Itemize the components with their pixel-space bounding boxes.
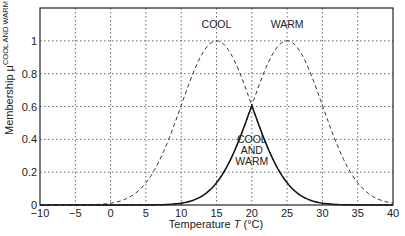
x-tick-label: −5 <box>69 207 82 219</box>
x-tick-label: 35 <box>352 207 364 219</box>
annotation-label: COOL <box>202 18 232 30</box>
y-axis-ticks: 00.20.40.60.81 <box>22 35 37 211</box>
y-tick-label: 0.6 <box>22 101 37 113</box>
annotation-label: WARM <box>235 155 268 167</box>
x-tick-label: 0 <box>108 207 114 219</box>
x-axis-label: Temperature T (°C) <box>169 218 263 230</box>
y-tick-label: 0.8 <box>22 68 37 80</box>
annotation-label: WARM <box>271 18 304 30</box>
y-axis-label: Membership μCOOL AND WARM <box>1 1 15 135</box>
x-tick-label: 30 <box>316 207 328 219</box>
x-tick-label: 5 <box>143 207 149 219</box>
y-tick-label: 0.4 <box>22 133 37 145</box>
x-tick-label: 40 <box>387 207 399 219</box>
x-tick-label: 25 <box>281 207 293 219</box>
y-tick-label: 1 <box>31 35 37 47</box>
grid-lines <box>40 8 393 205</box>
y-tick-label: 0.2 <box>22 166 37 178</box>
membership-chart: −10−50510152025303540 00.20.40.60.81 COO… <box>0 0 405 236</box>
curve-annotations: COOLWARMCOOLANDWARM <box>202 18 304 167</box>
y-tick-label: 0 <box>31 199 37 211</box>
